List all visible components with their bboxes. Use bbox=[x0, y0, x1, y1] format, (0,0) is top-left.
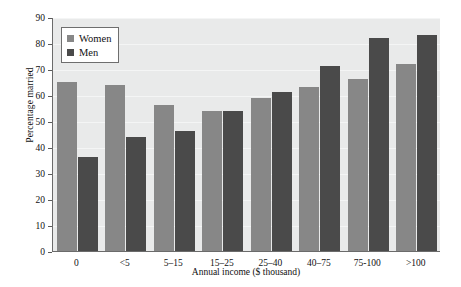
bar-women-75-100 bbox=[348, 79, 368, 251]
bar-women-40–75 bbox=[299, 87, 319, 251]
x-axis-title: Annual income ($ thousand) bbox=[52, 267, 440, 277]
y-axis: 0102030405060708090 bbox=[0, 18, 52, 252]
bar-men-0 bbox=[78, 157, 98, 251]
bar-chart-figure: Percentage married 0102030405060708090 W… bbox=[0, 0, 461, 287]
bar-group bbox=[344, 18, 393, 251]
bar-group bbox=[199, 18, 248, 251]
bar-men-15–25 bbox=[223, 111, 243, 251]
bar-women-25–40 bbox=[251, 98, 271, 251]
y-axis-tick-label: 60 bbox=[36, 90, 46, 102]
y-axis-tick-label: 50 bbox=[36, 116, 46, 128]
bar-men-75-100 bbox=[369, 38, 389, 251]
bar-men-<5 bbox=[126, 137, 146, 251]
legend-label-men: Men bbox=[79, 46, 98, 59]
y-axis-tick-label: 10 bbox=[36, 220, 46, 232]
y-axis-tick-label: 30 bbox=[36, 168, 46, 180]
x-axis: 0<55–1515–2525–4040–7575-100>100 bbox=[52, 252, 440, 268]
chart-legend: Women Men bbox=[61, 27, 119, 63]
legend-entry-men: Men bbox=[67, 45, 111, 59]
bar-women-<5 bbox=[105, 85, 125, 251]
bar-men-25–40 bbox=[272, 92, 292, 251]
bar-men-5–15 bbox=[175, 131, 195, 251]
bar-women-15–25 bbox=[202, 111, 222, 251]
men-swatch-icon bbox=[67, 49, 74, 56]
y-axis-tick-label: 90 bbox=[36, 12, 46, 24]
y-axis-tick-label: 20 bbox=[36, 194, 46, 206]
legend-label-women: Women bbox=[79, 32, 111, 45]
y-axis-tick-label: 70 bbox=[36, 64, 46, 76]
bar-men->100 bbox=[417, 35, 437, 251]
y-axis-tick-label: 40 bbox=[36, 142, 46, 154]
bar-women-0 bbox=[57, 82, 77, 251]
bar-women->100 bbox=[396, 64, 416, 251]
legend-entry-women: Women bbox=[67, 31, 111, 45]
women-swatch-icon bbox=[67, 35, 74, 42]
bar-group bbox=[247, 18, 296, 251]
bar-women-5–15 bbox=[154, 105, 174, 251]
bar-group bbox=[296, 18, 345, 251]
y-axis-tick-label: 80 bbox=[36, 38, 46, 50]
bar-group bbox=[150, 18, 199, 251]
bar-group bbox=[393, 18, 442, 251]
bar-men-40–75 bbox=[320, 66, 340, 251]
y-axis-tick-label: 0 bbox=[40, 246, 45, 258]
